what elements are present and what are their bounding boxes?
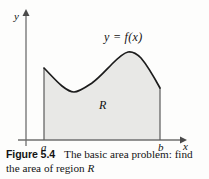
region-label: R (99, 99, 106, 111)
figure-number: Figure 5.4 (6, 148, 55, 160)
area-plot-svg (0, 0, 209, 146)
caption-region-symbol: R (87, 162, 94, 174)
figure-container: y x a b R y = f(x) Figure 5.4The basic a… (0, 0, 209, 179)
y-axis-arrowhead (23, 9, 30, 16)
plot-area: y x a b R y = f(x) (0, 0, 209, 146)
figure-caption: Figure 5.4The basic area problem: find t… (6, 148, 206, 175)
function-equation-label: y = f(x) (104, 31, 142, 43)
caption-line-2-prefix: the area of region (6, 162, 87, 174)
region-fill-path (44, 52, 160, 140)
caption-line-1: The basic area problem: find (64, 148, 193, 160)
y-axis-label: y (14, 11, 19, 22)
